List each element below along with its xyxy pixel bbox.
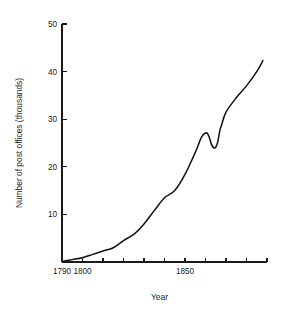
post-offices-line-chart: 1020304050 179018001850 Year Number of p… <box>0 0 288 320</box>
x-tick-label: 1790 <box>53 267 72 276</box>
y-tick-label: 20 <box>48 163 58 172</box>
y-tick-label: 40 <box>48 68 58 77</box>
x-axis-title: Year <box>151 292 168 302</box>
plot-area <box>62 61 263 262</box>
x-axis-group: 179018001850 <box>53 258 267 277</box>
x-axis-tick-labels: 179018001850 <box>53 267 195 276</box>
y-tick-label: 10 <box>48 210 58 219</box>
chart-figure: 1020304050 179018001850 Year Number of p… <box>0 0 288 320</box>
y-axis-title: Number of post offices (thousands) <box>14 78 24 208</box>
x-tick-label: 1850 <box>176 267 195 276</box>
data-series-line <box>62 61 263 262</box>
y-axis-group: 1020304050 <box>48 20 67 262</box>
y-axis-tick-labels: 1020304050 <box>48 20 58 219</box>
x-axis-ticks <box>62 258 267 263</box>
y-tick-label: 50 <box>48 20 58 29</box>
y-axis-ticks <box>62 24 67 214</box>
y-tick-label: 30 <box>48 115 58 124</box>
x-tick-label: 1800 <box>73 267 92 276</box>
